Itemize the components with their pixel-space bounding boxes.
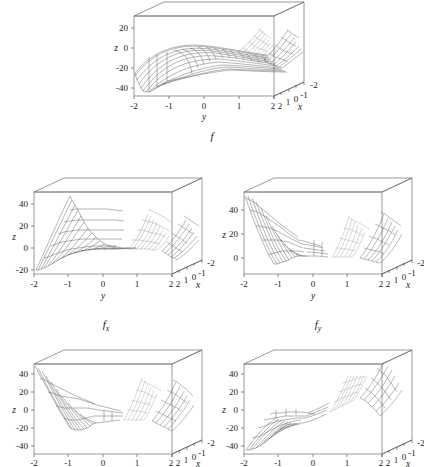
plot-fy-bounding-box — [244, 178, 412, 274]
plot-bottom-right-x-axis: 2 1 0 -1 -2 x — [382, 438, 424, 467]
plot-fx-canvas: 40 20 0 -20 z -2 -1 0 1 2 y 2 1 0 — [4, 178, 214, 308]
y-tick: 1 — [135, 458, 140, 467]
plot-f: 20 0 -20 -40 z -2 -1 0 1 2 y 2 1 — [104, 4, 320, 122]
plot-bottom-left-x-axis: 2 1 0 -1 -2 x — [172, 438, 215, 467]
z-tick: 20 — [19, 221, 29, 231]
y-tick: 2 — [379, 279, 384, 289]
z-tick: 20 — [229, 387, 239, 397]
y-tick: 2 — [169, 458, 174, 467]
x-tick: 2 — [386, 279, 391, 289]
plot-bottom-left-surface — [35, 366, 194, 431]
x-tick: -2 — [417, 258, 424, 268]
z-tick: -40 — [116, 83, 128, 93]
z-axis-label: z — [11, 232, 16, 242]
y-axis-label: y — [310, 291, 316, 301]
y-tick: -1 — [165, 101, 173, 111]
x-tick: -1 — [198, 448, 206, 458]
plot-bottom-right: 40 20 0 -20 -40 z -2 -1 0 1 2 2 1 0 — [214, 350, 424, 467]
x-tick: -1 — [300, 90, 308, 100]
plot-fy: 40 20 0 z -2 -1 0 1 2 y 2 1 0 -1 — [214, 178, 424, 308]
plot-bottom-right-surface — [246, 362, 402, 450]
z-axis-label: z — [221, 405, 226, 415]
x-axis-label: x — [405, 280, 411, 290]
x-tick: -1 — [408, 448, 416, 458]
plot-f-z-axis: 20 0 -20 -40 z — [113, 23, 134, 93]
plot-fx-y-axis: -2 -1 0 1 2 y — [30, 274, 173, 301]
z-axis-label: z — [221, 230, 226, 240]
z-tick: 0 — [124, 43, 129, 53]
y-tick: -1 — [64, 279, 72, 289]
x-tick: 2 — [278, 101, 283, 111]
z-tick: -20 — [16, 423, 28, 433]
caption-fx: fx — [0, 318, 212, 333]
plot-f-x-axis: 2 1 0 -1 -2 x — [274, 80, 318, 112]
x-axis-label: x — [195, 280, 201, 290]
z-tick: -40 — [16, 441, 28, 451]
z-tick: 0 — [234, 253, 239, 263]
y-tick: -1 — [274, 279, 282, 289]
caption-fy: fy — [212, 318, 424, 333]
plot-bottom-right-z-axis: 40 20 0 -20 -40 z — [221, 369, 244, 451]
z-tick: 0 — [24, 405, 29, 415]
plot-bottom-left-z-axis: 40 20 0 -20 -40 z — [11, 369, 34, 451]
y-tick: -2 — [240, 279, 248, 289]
z-tick: 20 — [119, 23, 129, 33]
plot-fx: 40 20 0 -20 z -2 -1 0 1 2 y 2 1 0 — [4, 178, 214, 308]
y-tick: -2 — [130, 101, 138, 111]
surface-plot-figure: 20 0 -20 -40 z -2 -1 0 1 2 y 2 1 — [0, 0, 424, 467]
plot-bottom-left-y-axis: -2 -1 0 1 2 — [30, 454, 173, 467]
y-tick: 1 — [345, 458, 350, 467]
caption-fx-sub: x — [106, 324, 110, 333]
caption-fy-sub: y — [318, 324, 322, 333]
x-tick: 1 — [394, 275, 399, 285]
z-tick: -20 — [226, 423, 238, 433]
y-tick: 1 — [237, 101, 242, 111]
plot-bottom-right-y-axis: -2 -1 0 1 2 — [240, 454, 383, 467]
z-axis-label: z — [11, 405, 16, 415]
y-tick: -2 — [240, 458, 248, 467]
y-tick: -1 — [64, 458, 72, 467]
plot-f-canvas: 20 0 -20 -40 z -2 -1 0 1 2 y 2 1 — [104, 4, 320, 122]
plot-fy-x-axis: 2 1 0 -1 -2 x — [382, 258, 424, 290]
x-tick: -2 — [310, 80, 318, 90]
plot-fy-canvas: 40 20 0 z -2 -1 0 1 2 y 2 1 0 -1 — [214, 178, 424, 308]
plot-bottom-left: 40 20 0 -20 -40 z -2 -1 0 1 2 2 1 0 — [4, 350, 214, 467]
z-tick: 0 — [24, 243, 29, 253]
x-tick: -2 — [417, 438, 424, 448]
y-tick: 0 — [311, 458, 316, 467]
y-tick: 2 — [271, 101, 276, 111]
x-tick: -1 — [198, 268, 206, 278]
z-tick: 40 — [19, 199, 29, 209]
plot-f-y-axis: -2 -1 0 1 2 y — [130, 96, 275, 122]
y-tick: 2 — [169, 279, 174, 289]
x-tick: 1 — [286, 97, 291, 107]
x-axis-label: x — [195, 459, 201, 467]
plot-fx-z-axis: 40 20 0 -20 z — [11, 199, 34, 275]
x-tick: 1 — [184, 275, 189, 285]
z-tick: 0 — [234, 405, 239, 415]
y-axis-label: y — [100, 291, 106, 301]
plot-fx-surface — [36, 196, 199, 270]
z-tick: -20 — [16, 265, 28, 275]
y-axis-label: y — [201, 112, 207, 122]
z-tick: 20 — [229, 229, 239, 239]
plot-fx-x-axis: 2 1 0 -1 -2 x — [172, 258, 215, 290]
y-tick: -2 — [30, 458, 38, 467]
x-tick: 2 — [176, 458, 181, 467]
plot-fy-z-axis: 40 20 0 z — [221, 205, 244, 263]
plot-f-bounding-box — [134, 2, 304, 96]
y-tick: -2 — [30, 279, 38, 289]
z-tick: 40 — [19, 369, 29, 379]
y-tick: 0 — [101, 458, 106, 467]
y-tick: 0 — [202, 101, 207, 111]
z-axis-label: z — [113, 43, 118, 53]
caption-f: f — [0, 130, 424, 142]
plot-bottom-left-canvas: 40 20 0 -20 -40 z -2 -1 0 1 2 2 1 0 — [4, 350, 214, 467]
plot-bottom-right-canvas: 40 20 0 -20 -40 z -2 -1 0 1 2 2 1 0 — [214, 350, 424, 467]
x-axis-label: x — [405, 459, 411, 467]
z-tick: -20 — [116, 63, 128, 73]
y-tick: 2 — [379, 458, 384, 467]
plot-fy-surface — [245, 196, 402, 264]
plot-f-surface — [135, 28, 303, 92]
plot-bottom-left-bounding-box — [34, 350, 202, 454]
